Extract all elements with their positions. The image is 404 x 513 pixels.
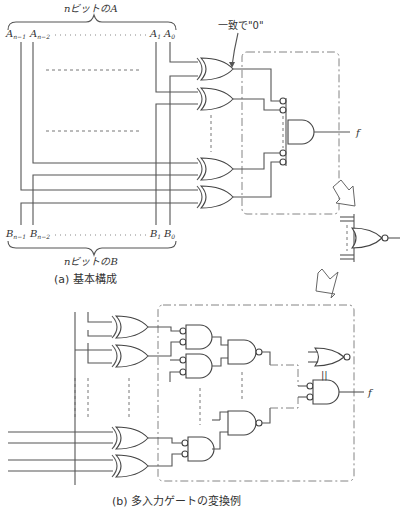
svg-text:A0: A0 (163, 28, 175, 40)
output-f-a: f (355, 127, 362, 138)
top-brace-label: nビットのA (64, 3, 118, 14)
nor-gate-equivalent (315, 348, 344, 366)
caption-b: (b) 多入力ゲートの変換例 (112, 494, 241, 508)
b-input-labels: Bn−1 Bn−2 B1 B0 (5, 228, 175, 240)
transform-arrow-1 (333, 180, 355, 206)
final-gate (313, 380, 339, 404)
xor-gates (197, 58, 233, 208)
svg-text:A1: A1 (149, 28, 161, 40)
transform-arrow-2 (316, 269, 338, 298)
nor-equivalent (340, 214, 400, 262)
xor-outputs (233, 69, 280, 197)
svg-text:Bn−2: Bn−2 (29, 228, 50, 240)
equivalence-mark: || (321, 369, 328, 381)
output-f-b: f (367, 387, 374, 398)
svg-text:An−1: An−1 (5, 28, 26, 40)
figure-b: f || (b) 多入力ゲートの変換例 (8, 305, 374, 508)
level1-gates (180, 325, 214, 461)
annotation-arrow (232, 33, 238, 66)
bottom-brace (8, 241, 176, 255)
bottom-brace-label: nビットのB (64, 256, 118, 267)
a-input-labels: An−1 An−2 A1 A0 (5, 28, 175, 40)
svg-text:B1: B1 (149, 228, 161, 240)
caption-a: (a) 基本構成 (54, 272, 117, 286)
level2-gates (228, 340, 262, 435)
input-wires (21, 42, 198, 225)
svg-text:Bn−1: Bn−1 (5, 228, 26, 240)
and-gate (288, 120, 314, 144)
comparator-diagram: nビットのA An−1 An−2 A1 A0 (0, 0, 404, 513)
inverted-inputs (280, 98, 286, 166)
svg-text:B0: B0 (163, 228, 175, 240)
svg-text:An−2: An−2 (29, 28, 50, 40)
annotation-label: 一致で"0" (218, 19, 264, 31)
figure-a: nビットのA An−1 An−2 A1 A0 (5, 3, 362, 286)
